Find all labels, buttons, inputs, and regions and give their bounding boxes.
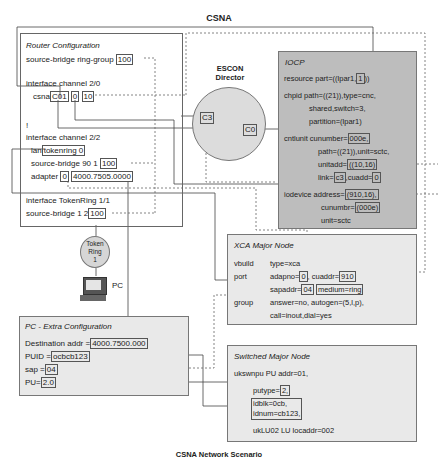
csna-line: csnaC01 0 10 xyxy=(33,92,94,102)
router-config-heading: Router Configuration xyxy=(26,41,100,51)
xca-port: port xyxy=(234,272,247,282)
iocp-chpid-2: shared,switch=3, xyxy=(309,104,366,114)
pc-extra-config-panel: PC - Extra Configuration Destination add… xyxy=(19,316,189,396)
diagram-caption: CSNA Network Scenario xyxy=(0,450,438,459)
escon-port-c3: C3 xyxy=(200,112,214,124)
interface-channel-20: interface channel 2/0 xyxy=(26,79,100,89)
iocp-iodevice: iodevice address=(910,16), xyxy=(284,190,379,200)
pc-dest-addr: Destination addr =4000.7500.000 xyxy=(25,339,148,349)
lan-line: lantokenring 0 xyxy=(31,146,85,156)
xca-group-1: answer=no, autogen=(5,l,p), xyxy=(270,298,364,308)
pc-label: PC xyxy=(112,281,123,291)
iocp-unitadd: unitadd=((10,16) xyxy=(318,160,377,170)
smn-putype: putype=2, xyxy=(253,386,290,396)
iocp-cunumbr: cunumbr=(000e) xyxy=(321,203,380,213)
separator-bang: ! xyxy=(26,121,28,131)
xca-vbuild-value: type=xca xyxy=(270,259,300,269)
source-bridge-line: source-bridge 90 1 100 xyxy=(31,159,117,169)
pc-icon xyxy=(79,277,109,305)
iocp-cntlunit: cntlunit cunumber=000e, xyxy=(284,134,370,144)
token-ring-circle: TokenRing1 xyxy=(80,236,110,268)
interface-channel-22: interface channel 2/2 xyxy=(26,133,100,143)
iocp-cntlunit-path: path=((21)),unit=sctc, xyxy=(318,147,389,157)
xca-group: group xyxy=(234,298,253,308)
xca-heading: XCA Major Node xyxy=(234,241,294,251)
iocp-resource: resource part=((lpar1,1)) xyxy=(284,74,370,84)
interface-tokenring: interface TokenRing 1/1 xyxy=(26,196,110,206)
smn-lu-line: ukLU02 LU locaddr=002 xyxy=(253,426,334,436)
smn-heading: Switched Major Node xyxy=(234,352,310,362)
diagram-title: CSNA xyxy=(0,13,438,23)
iocp-link: link=c3,cuadd=0 xyxy=(318,173,381,183)
smn-pu-line: ukswnpu PU addr=01, xyxy=(234,369,308,379)
pc-puid: PUID =ocbcb123 xyxy=(25,352,90,362)
xca-major-node-panel: XCA Major Node vbuild type=xca port adap… xyxy=(227,234,417,325)
iocp-chpid-1: chpid path=((21)),type=cnc, xyxy=(284,91,376,101)
pc-sap: sap =04 xyxy=(25,365,58,375)
xca-sapaddr: sapaddr=04 medium=ring xyxy=(270,285,363,295)
source-bridge-2-line: source-bridge 1 2100 xyxy=(26,209,106,219)
router-config-panel: Router Configuration source-bridge ring-… xyxy=(20,33,183,227)
escon-director-label: ESCONDirector xyxy=(200,64,260,82)
xca-adapno: adapno=0, cuaddr=910 xyxy=(270,272,356,282)
adapter-line: adapter 0 4000.7505.0000 xyxy=(31,172,133,182)
pc-pu: PU=2.0 xyxy=(25,378,56,388)
smn-id-box: idblk=0cb,idnum=cb123, xyxy=(251,398,302,420)
ring-group-value: 100 xyxy=(116,54,133,65)
xca-group-2: call=inout,dial=yes xyxy=(270,311,332,321)
pc-config-heading: PC - Extra Configuration xyxy=(25,322,112,332)
switched-major-node-panel: Switched Major Node ukswnpu PU addr=01, … xyxy=(227,345,417,442)
xca-vbuild: vbuild xyxy=(234,259,254,269)
iocp-panel: IOCP resource part=((lpar1,1)) chpid pat… xyxy=(278,51,417,229)
ring-group-line: source-bridge ring-group 100 xyxy=(26,55,133,65)
iocp-heading: IOCP xyxy=(285,58,305,68)
iocp-chpid-3: partition=(lpar1) xyxy=(309,117,362,127)
iocp-unit: unit=sctc xyxy=(321,216,351,226)
escon-port-c0: C0 xyxy=(243,124,257,136)
